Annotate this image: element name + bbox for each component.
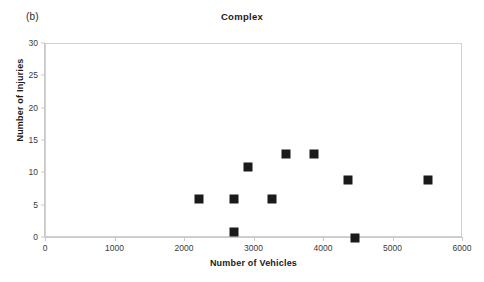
y-tick-label: 0 <box>4 232 38 242</box>
x-tick-label: 4000 <box>314 243 333 253</box>
x-tick-mark <box>115 237 116 241</box>
x-axis-title: Number of Vehicles <box>45 258 462 268</box>
x-tick-mark <box>45 237 46 241</box>
data-point <box>229 227 238 236</box>
data-point <box>424 175 433 184</box>
x-tick-mark <box>184 237 185 241</box>
data-point <box>243 162 252 171</box>
data-point <box>194 195 203 204</box>
data-point <box>344 175 353 184</box>
data-points-layer <box>46 44 461 236</box>
x-tick-label: 3000 <box>244 243 263 253</box>
data-point <box>309 149 318 158</box>
x-tick-mark <box>393 237 394 241</box>
data-point <box>281 149 290 158</box>
y-axis-title: Number of Injuries <box>15 30 25 170</box>
x-tick-label: 6000 <box>453 243 472 253</box>
x-tick-mark <box>462 237 463 241</box>
data-point <box>351 234 360 243</box>
x-tick-mark <box>323 237 324 241</box>
data-point <box>267 195 276 204</box>
y-tick-label: 5 <box>4 200 38 210</box>
data-point <box>229 195 238 204</box>
plot-area <box>45 43 462 237</box>
scatter-chart-figure: (b) Complex 051015202530 010002000300040… <box>0 0 484 282</box>
x-tick-label: 0 <box>43 243 48 253</box>
x-tick-label: 1000 <box>105 243 124 253</box>
chart-title: Complex <box>0 11 484 22</box>
x-tick-mark <box>254 237 255 241</box>
x-tick-label: 2000 <box>175 243 194 253</box>
x-tick-label: 5000 <box>383 243 402 253</box>
